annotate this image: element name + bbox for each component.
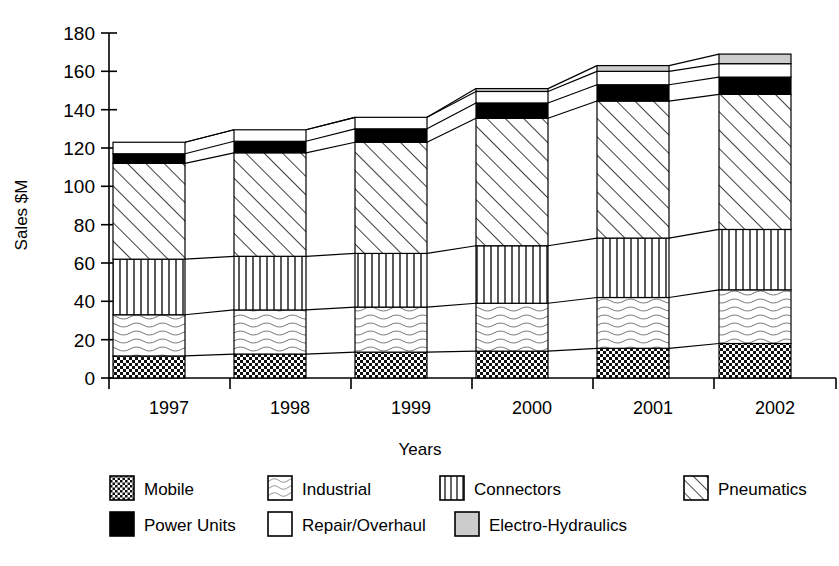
stacked-bar-chart: 0 20 40 60 80 100 120 140 160 180 Sales … <box>0 0 839 566</box>
y-axis: 0 20 40 60 80 100 120 140 160 180 Sales … <box>12 23 117 389</box>
series-connector-power-units <box>427 103 476 129</box>
series-connector-pneumatics <box>548 101 597 118</box>
bar-1999 <box>355 117 427 378</box>
bar-segment-repair-overhaul <box>719 64 791 77</box>
series-connector-connectors <box>306 253 355 256</box>
bar-segment-connectors <box>355 253 427 307</box>
bar-segment-electro-hydraulics <box>476 89 548 92</box>
legend-item-mobile: Mobile <box>110 476 194 500</box>
series-connector-electro-hydraulics <box>306 117 355 129</box>
series-connector-power-units <box>548 85 597 103</box>
y-tick-label: 60 <box>74 253 95 274</box>
legend-swatch-checker-icon <box>110 476 134 500</box>
x-tick-label: 2000 <box>512 398 552 418</box>
bar-segment-connectors <box>476 246 548 304</box>
y-tick-label: 160 <box>63 61 95 82</box>
legend-item-power-units: Power Units <box>110 512 236 536</box>
legend-label: Industrial <box>302 480 371 499</box>
x-axis-tick-labels: 1997 1998 1999 2000 2001 2002 <box>149 398 795 418</box>
bar-segment-mobile <box>234 354 306 378</box>
bar-segment-connectors <box>597 238 669 297</box>
bar-segment-pneumatics <box>234 153 306 257</box>
x-axis-ticks <box>109 378 836 389</box>
bar-segment-connectors <box>234 256 306 310</box>
bar-segment-industrial <box>234 310 306 354</box>
bar-segment-power-units <box>719 77 791 94</box>
bar-segment-industrial <box>355 307 427 352</box>
bar-segment-mobile <box>719 344 791 379</box>
series-connector-pneumatics <box>669 94 719 101</box>
series-connector-power-units <box>306 129 355 141</box>
bar-2000 <box>476 89 548 378</box>
legend: MobileIndustrialConnectorsPneumaticsPowe… <box>110 476 807 536</box>
bar-segment-mobile <box>113 356 185 378</box>
legend-label: Connectors <box>474 480 561 499</box>
bar-1997 <box>113 142 185 378</box>
bar-segment-electro-hydraulics <box>719 54 791 64</box>
legend-label: Mobile <box>144 480 194 499</box>
series-connector-pneumatics <box>427 118 476 142</box>
series-connector-mobile <box>427 351 476 352</box>
legend-label: Pneumatics <box>718 480 807 499</box>
bar-segment-connectors <box>719 229 791 289</box>
x-tick-label: 2002 <box>755 398 795 418</box>
x-axis: 1997 1998 1999 2000 2001 2002 Years <box>109 378 836 459</box>
legend-item-pneumatics: Pneumatics <box>684 476 807 500</box>
series-connector-industrial <box>669 290 719 298</box>
series-connector-connectors <box>185 256 234 259</box>
series-connector-connectors <box>548 238 597 246</box>
legend-swatch-white-icon <box>268 512 292 536</box>
legend-swatch-solid-black-icon <box>110 512 134 536</box>
bar-segment-pneumatics <box>113 163 185 259</box>
legend-item-repair-overhaul: Repair/Overhaul <box>268 512 426 536</box>
bar-segment-power-units <box>476 103 548 118</box>
series-connector-mobile <box>306 352 355 354</box>
legend-item-electro-hydraulics: Electro-Hydraulics <box>455 512 627 536</box>
y-tick-label: 20 <box>74 330 95 351</box>
x-tick-label: 2001 <box>633 398 673 418</box>
series-connector-repair-overhaul <box>669 64 719 72</box>
x-axis-title: Years <box>399 440 442 459</box>
chart-canvas: 0 20 40 60 80 100 120 140 160 180 Sales … <box>0 0 839 566</box>
bar-2002 <box>719 54 791 378</box>
series-connector-electro-hydraulics <box>669 54 719 66</box>
y-tick-label: 100 <box>63 176 95 197</box>
y-tick-label: 180 <box>63 23 95 44</box>
bar-segment-power-units <box>597 85 669 101</box>
bar-segment-industrial <box>719 290 791 344</box>
legend-label: Power Units <box>144 516 236 535</box>
legend-label: Electro-Hydraulics <box>489 516 627 535</box>
bar-segment-mobile <box>476 351 548 378</box>
legend-label: Repair/Overhaul <box>302 516 426 535</box>
series-connector-mobile <box>669 344 719 349</box>
series-connector-repair-overhaul <box>548 71 597 91</box>
legend-swatch-diagonal-icon <box>684 476 708 500</box>
bar-segment-pneumatics <box>597 101 669 238</box>
series-connector-mobile <box>548 348 597 351</box>
bar-segment-repair-overhaul <box>234 130 306 142</box>
legend-item-industrial: Industrial <box>268 476 371 500</box>
series-connector-power-units <box>185 141 234 153</box>
y-axis-title: Sales $M <box>12 180 31 251</box>
y-tick-label: 0 <box>84 368 95 389</box>
series-connector-industrial <box>548 298 597 304</box>
bar-segment-pneumatics <box>719 94 791 229</box>
series-connector-electro-hydraulics <box>427 89 476 118</box>
series-connector-industrial <box>306 307 355 310</box>
bar-segment-repair-overhaul <box>597 71 669 84</box>
x-tick-label: 1999 <box>391 398 431 418</box>
bar-segment-mobile <box>355 352 427 378</box>
bar-2001 <box>597 66 669 378</box>
series-connector-power-units <box>669 77 719 85</box>
bar-segment-industrial <box>476 303 548 351</box>
y-tick-label: 140 <box>63 100 95 121</box>
bar-segment-pneumatics <box>476 118 548 245</box>
series-connector-pneumatics <box>306 142 355 153</box>
legend-item-connectors: Connectors <box>440 476 561 500</box>
y-tick-label: 120 <box>63 138 95 159</box>
series-connector-mobile <box>185 354 234 356</box>
y-tick-label: 80 <box>74 215 95 236</box>
x-tick-label: 1997 <box>149 398 189 418</box>
series-connector-connectors <box>669 229 719 238</box>
y-axis-tick-labels: 0 20 40 60 80 100 120 140 160 180 <box>63 23 95 389</box>
